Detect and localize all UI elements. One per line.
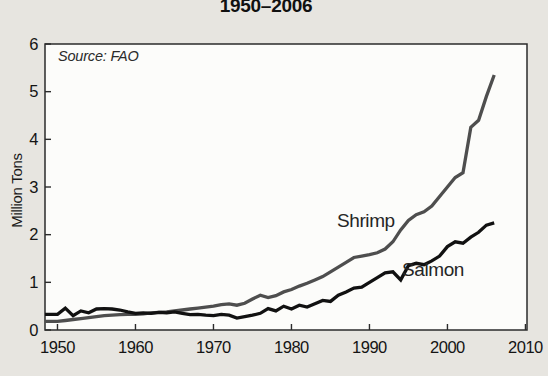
shrimp-series-label: Shrimp (337, 210, 395, 232)
chart-figure: 01234561950196019701980199020002010 1950… (0, 0, 548, 376)
y-tick-label: 6 (29, 35, 38, 53)
x-tick-label: 1990 (352, 338, 387, 356)
y-tick-label: 4 (29, 130, 38, 148)
plot-area (45, 44, 527, 330)
y-tick-label: 0 (29, 321, 38, 339)
source-note: Source: FAO (58, 48, 139, 64)
x-tick-label: 1960 (118, 338, 153, 356)
y-tick-label: 1 (29, 273, 38, 291)
y-tick-label: 5 (29, 82, 38, 100)
x-tick-label: 2000 (430, 338, 465, 356)
x-tick-label: 1950 (40, 338, 75, 356)
x-tick-label: 1980 (274, 338, 309, 356)
y-tick-label: 2 (29, 225, 38, 243)
y-axis-title: Million Tons (8, 141, 25, 241)
x-tick-label: 1970 (196, 338, 231, 356)
x-tick-label: 2010 (508, 338, 543, 356)
salmon-series-label: Salmon (402, 259, 464, 281)
chart-title: 1950–2006 (0, 0, 532, 17)
y-tick-label: 3 (29, 178, 38, 196)
